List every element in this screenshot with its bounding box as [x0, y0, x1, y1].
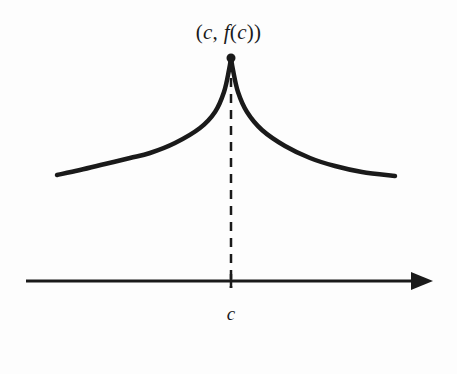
x-axis-label-c: c: [227, 303, 235, 325]
cusp-function-figure: (c, f(c)) c: [0, 0, 457, 374]
point-coordinate-label: (c, f(c)): [196, 20, 262, 45]
function-curve-left-branch: [57, 58, 231, 175]
point-label-inner-var-c: c: [237, 20, 247, 44]
point-label-var-c: c: [203, 20, 213, 44]
point-label-close-paren: ): [254, 20, 261, 44]
point-label-comma: ,: [213, 20, 224, 44]
x-axis-arrowhead: [411, 272, 433, 290]
cusp-point-marker: [227, 54, 236, 63]
function-curve-right-branch: [231, 58, 395, 176]
